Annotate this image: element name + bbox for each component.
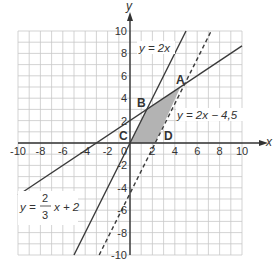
point-label-c: C — [119, 129, 128, 143]
x-tick-label: -2 — [103, 145, 113, 157]
y-tick-label: -4 — [117, 182, 127, 194]
svg-text:y = 2x − 4,5: y = 2x − 4,5 — [176, 109, 238, 121]
svg-text:y = 2x: y = 2x — [138, 42, 171, 54]
x-tick-label: 4 — [172, 145, 178, 157]
svg-text:x + 2: x + 2 — [53, 201, 80, 213]
label-line-2x-minus-4-5: y = 2x − 4,5 — [176, 108, 244, 121]
y-tick-label: 10 — [115, 25, 127, 37]
origin-label: 0 — [121, 145, 127, 157]
x-tick-label: 10 — [236, 145, 248, 157]
svg-text:2: 2 — [42, 192, 48, 204]
x-tick-label: -10 — [10, 145, 26, 157]
point-label-d: D — [164, 129, 173, 143]
point-label-a: A — [176, 73, 185, 87]
x-axis-label: x — [265, 135, 273, 149]
y-tick-label: 6 — [121, 70, 127, 82]
coordinate-graph: -10-8-6-4-2246810108642-2-4-6-8-100 x y … — [0, 0, 277, 262]
y-tick-label: 8 — [121, 47, 127, 59]
x-tick-label: 2 — [149, 145, 155, 157]
x-tick-label: -8 — [36, 145, 46, 157]
y-tick-label: -8 — [117, 227, 127, 239]
x-tick-label: -6 — [58, 145, 68, 157]
svg-text:3: 3 — [42, 209, 48, 221]
label-line-2x: y = 2x — [137, 41, 175, 54]
y-tick-label: -10 — [111, 249, 127, 261]
x-tick-label: 8 — [217, 145, 223, 157]
y-tick-label: 4 — [121, 92, 127, 104]
point-label-b: B — [137, 96, 146, 110]
y-axis-label: y — [125, 0, 133, 13]
svg-text:y =: y = — [19, 201, 36, 213]
x-tick-label: 6 — [194, 145, 200, 157]
x-tick-label: -4 — [80, 145, 90, 157]
y-tick-label: -6 — [117, 204, 127, 216]
y-tick-label: 2 — [121, 115, 127, 127]
y-tick-label: -2 — [117, 159, 127, 171]
label-line-two-thirds-x-plus-2: y = 2 3 x + 2 — [18, 191, 80, 225]
